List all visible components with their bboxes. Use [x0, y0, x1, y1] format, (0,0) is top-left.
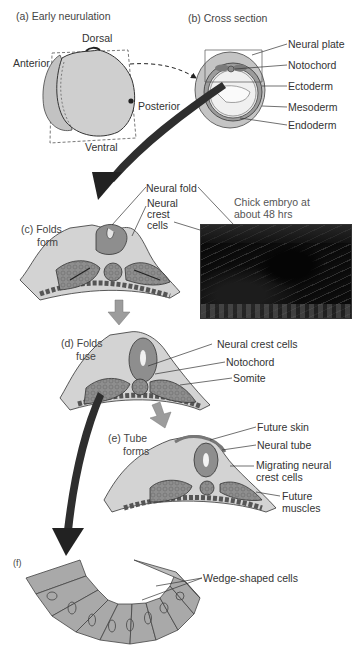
label-mesoderm: Mesoderm	[288, 101, 338, 113]
label-migrating-neural-1: Migrating neural	[256, 459, 331, 471]
label-somite: Somite	[233, 372, 266, 384]
label-endoderm: Endoderm	[288, 119, 336, 131]
label-anterior: Anterior	[13, 57, 50, 69]
label-future-skin: Future skin	[257, 421, 309, 433]
panel-d-title-line2: fuse	[76, 350, 96, 362]
panel-f-title: (f)	[13, 557, 22, 569]
label-wedge-shaped-cells: Wedge-shaped cells	[203, 572, 298, 584]
label-neural-crest-cells-d: Neural crest cells	[217, 338, 298, 350]
photo-caption-line2: about 48 hrs	[234, 208, 292, 220]
label-ectoderm: Ectoderm	[288, 80, 333, 92]
label-future-muscles-2: muscles	[282, 502, 321, 514]
label-ventral: Ventral	[85, 141, 118, 153]
chick-embryo-photo	[200, 224, 352, 319]
photo-caption-line1: Chick embryo at	[234, 196, 310, 208]
wedge-shaped-cells-diagram	[26, 560, 202, 644]
panel-c-title-line2: form	[37, 236, 58, 248]
label-notochord-b: Notochord	[288, 59, 336, 71]
cross-section-diagram	[195, 44, 287, 128]
panel-b-title: (b) Cross section	[188, 12, 267, 24]
label-neural-tube: Neural tube	[257, 439, 311, 451]
embryo-early-neurulation	[43, 48, 196, 143]
panel-d-title-line1: (d) Folds	[61, 337, 102, 349]
neurulation-diagram	[0, 0, 358, 648]
transition-arrow-d-to-f	[64, 392, 104, 531]
transition-arrow-c-to-d	[108, 300, 130, 325]
label-notochord-d: Notochord	[226, 356, 274, 368]
panel-a-title: (a) Early neurulation	[16, 10, 111, 22]
label-dorsal: Dorsal	[82, 32, 112, 44]
label-migrating-neural-2: crest cells	[256, 471, 303, 483]
panel-c-title-line1: (c) Folds	[21, 223, 62, 235]
label-future-muscles-1: Future	[282, 490, 312, 502]
transition-arrow-d-to-e	[150, 402, 171, 428]
label-neural-plate: Neural plate	[288, 38, 345, 50]
label-neural-fold: Neural fold	[146, 182, 197, 194]
panel-e-title-line1: (e) Tube	[108, 432, 147, 444]
label-posterior: Posterior	[138, 100, 180, 112]
label-neural-crest-c-3: cells	[147, 219, 168, 231]
panel-e-title-line2: forms	[123, 445, 149, 457]
